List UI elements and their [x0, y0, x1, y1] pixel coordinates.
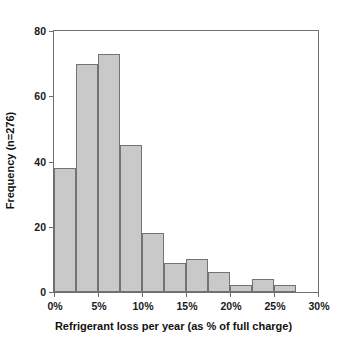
- x-tick: 15%: [186, 292, 187, 297]
- x-axis-label: Refrigerant loss per year (as % of full …: [0, 320, 347, 332]
- x-tick-label: 25%: [264, 300, 285, 312]
- histogram-bar: [54, 168, 76, 292]
- x-tick: 5%: [98, 292, 99, 297]
- y-tick: 20: [49, 227, 54, 228]
- y-axis-label: Frequency (n=276): [4, 30, 18, 291]
- bar-series: [54, 31, 318, 292]
- x-tick: 10%: [142, 292, 143, 297]
- x-tick-label: 10%: [132, 300, 153, 312]
- histogram-bar: [186, 259, 208, 292]
- x-tick: 30%: [318, 292, 319, 297]
- x-tick-label: 15%: [176, 300, 197, 312]
- histogram-bar: [98, 54, 120, 292]
- x-tick-label: 5%: [91, 300, 106, 312]
- histogram-bar: [120, 145, 142, 292]
- histogram-figure: Frequency (n=276) 020406080 0%5%10%15%20…: [0, 0, 347, 351]
- histogram-bar: [142, 233, 164, 292]
- histogram-bar: [230, 285, 252, 292]
- x-tick: 20%: [230, 292, 231, 297]
- y-tick-label: 80: [34, 25, 46, 37]
- y-tick-label: 0: [40, 286, 46, 298]
- x-tick: 0%: [54, 292, 55, 297]
- y-tick: 40: [49, 162, 54, 163]
- y-tick: 60: [49, 96, 54, 97]
- x-tick: 25%: [274, 292, 275, 297]
- y-tick-label: 60: [34, 90, 46, 102]
- y-tick-label: 20: [34, 221, 46, 233]
- histogram-bar: [164, 263, 186, 292]
- histogram-bar: [208, 272, 230, 292]
- x-tick-label: 30%: [308, 300, 329, 312]
- x-tick-label: 0%: [47, 300, 62, 312]
- histogram-bar: [76, 64, 98, 292]
- plot-area: 020406080 0%5%10%15%20%25%30%: [53, 30, 319, 293]
- y-tick-label: 40: [34, 156, 46, 168]
- histogram-bar: [274, 285, 296, 292]
- x-tick-label: 20%: [220, 300, 241, 312]
- y-tick: 80: [49, 31, 54, 32]
- histogram-bar: [252, 279, 274, 292]
